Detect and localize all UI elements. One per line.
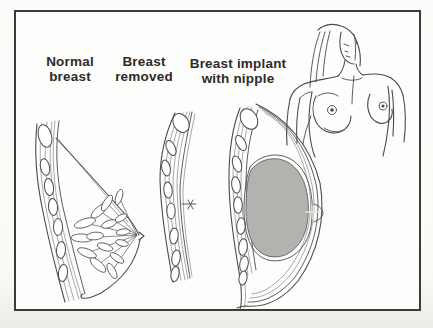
rib — [231, 155, 244, 173]
female-torso-illustration — [284, 12, 429, 164]
rib — [57, 264, 68, 282]
panel-label-line: Normal — [28, 54, 112, 69]
face-detail — [344, 44, 349, 46]
panel-label-line: Breast — [104, 54, 184, 69]
rib — [231, 176, 242, 194]
rib — [56, 241, 66, 259]
panel-label-line: with nipple — [174, 71, 302, 86]
rib — [43, 178, 54, 196]
rib — [163, 182, 173, 199]
gland-lobule — [88, 255, 108, 274]
mastectomy-cross-section-illustration — [152, 106, 208, 292]
neck-and-shoulders — [290, 60, 403, 104]
panel-label-line: breast — [28, 69, 112, 84]
chest-wall — [36, 121, 85, 302]
mastectomy-scar-mark — [182, 200, 196, 209]
clavicle — [237, 105, 262, 132]
rib — [169, 228, 179, 245]
gland-lobule — [73, 216, 97, 231]
gland-lobule — [86, 231, 104, 240]
panel-label-line: Breast implant — [174, 56, 302, 71]
chest-wall — [160, 111, 195, 282]
head-and-hair — [310, 24, 360, 87]
gland-lobule — [113, 188, 124, 205]
rib — [48, 198, 58, 216]
nipple — [139, 232, 144, 240]
implant-body — [246, 159, 308, 257]
rib — [239, 255, 250, 272]
gland-lobule — [109, 251, 126, 265]
breasts — [313, 93, 392, 133]
gland-lobule — [116, 228, 131, 236]
normal-breast-cross-section-illustration — [25, 112, 155, 304]
rib — [167, 203, 175, 219]
breast-implant — [244, 155, 312, 261]
gland-lobule — [96, 241, 113, 253]
panel-label-breast-implant: Breast implant with nipple — [174, 56, 302, 86]
nipple — [381, 104, 384, 107]
gland-lobule — [105, 262, 119, 280]
rib — [233, 197, 242, 214]
face-detail — [345, 51, 348, 52]
rib — [238, 238, 248, 255]
illustration-page: Normal breast Breast removed Breast impl… — [0, 0, 433, 328]
panel-label-normal-breast: Normal breast — [28, 54, 112, 84]
face-detail — [346, 56, 350, 57]
nipple — [330, 108, 334, 112]
mammary-gland — [71, 188, 137, 280]
rib — [54, 219, 63, 236]
gland-lobule — [115, 238, 129, 247]
rib — [164, 139, 178, 157]
panel-label-breast-removed: Breast removed — [104, 54, 184, 84]
breast-profile — [56, 138, 144, 298]
rib — [170, 266, 180, 282]
panel-label-line: removed — [104, 69, 184, 84]
